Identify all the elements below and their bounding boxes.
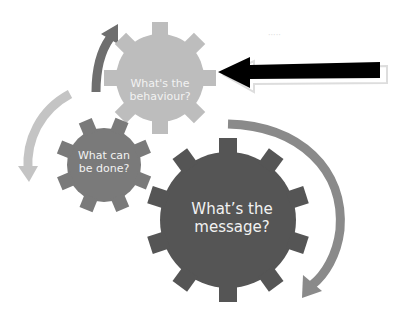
gear-message-label: What’s the message? [191, 200, 272, 236]
pointer-arrow-icon [218, 57, 387, 92]
gear-behaviour-label-line1: What's the [129, 77, 190, 90]
faint-annotation: ····· [268, 31, 281, 40]
gear-done-label-line2: be done? [78, 162, 130, 175]
gear-behaviour-label-line2: behaviour? [129, 90, 190, 103]
gear-message-label-line2: message? [191, 218, 272, 236]
gear-behaviour-label: What's the behaviour? [129, 77, 190, 103]
gear-message-label-line1: What’s the [191, 200, 272, 218]
gear-done-label: What can be done? [78, 149, 130, 175]
gear-diagram [0, 0, 407, 320]
gear-done-label-line1: What can [78, 149, 130, 162]
cycle-arrow-down-left [18, 94, 70, 182]
